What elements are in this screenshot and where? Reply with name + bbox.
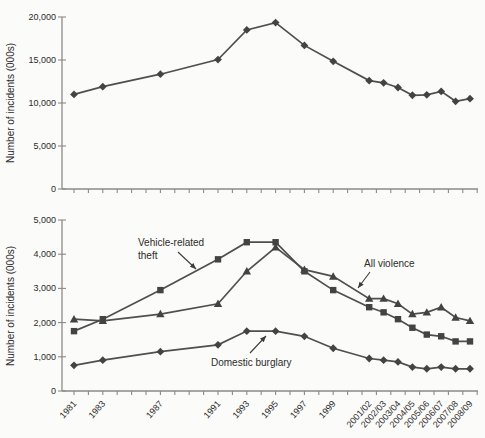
diamond-marker-icon bbox=[243, 327, 251, 335]
dual-panel-line-chart: Number of incidents (000s) Number of inc… bbox=[0, 0, 485, 438]
diamond-marker-icon bbox=[394, 358, 402, 366]
square-marker-icon bbox=[157, 287, 163, 293]
square-marker-icon bbox=[467, 338, 473, 344]
diamond-marker-icon bbox=[409, 91, 417, 99]
x-axis-tick-label: 1995 bbox=[259, 399, 280, 421]
y-axis-tick-label: 10,000 bbox=[28, 98, 56, 108]
top-y-axis-title: Number of incidents (000s) bbox=[5, 43, 16, 163]
y-axis-tick-label: 0 bbox=[51, 184, 56, 194]
y-axis-tick-label: 3,000 bbox=[33, 283, 56, 293]
x-axis-tick-label: 1987 bbox=[144, 399, 165, 421]
diamond-marker-icon bbox=[466, 95, 474, 103]
diamond-marker-icon bbox=[452, 365, 460, 373]
annotation-vehicle-theft-line1: Vehicle-related bbox=[138, 237, 204, 248]
diamond-marker-icon bbox=[70, 361, 78, 369]
diamond-marker-icon bbox=[365, 355, 373, 363]
y-axis-tick-label: 1,000 bbox=[33, 352, 56, 362]
diamond-marker-icon bbox=[423, 91, 431, 99]
y-axis-tick-label: 2,000 bbox=[33, 318, 56, 328]
square-marker-icon bbox=[380, 309, 386, 315]
diamond-marker-icon bbox=[99, 356, 107, 364]
y-axis-tick-label: 20,000 bbox=[28, 12, 56, 22]
square-marker-icon bbox=[366, 304, 372, 310]
diamond-marker-icon bbox=[301, 332, 309, 340]
diamond-marker-icon bbox=[409, 363, 417, 371]
square-marker-icon bbox=[438, 333, 444, 339]
y-axis-tick-label: 15,000 bbox=[28, 55, 56, 65]
diamond-marker-icon bbox=[70, 91, 78, 99]
diamond-marker-icon bbox=[329, 344, 337, 352]
x-axis-tick-label: 1981 bbox=[58, 399, 79, 421]
diamond-marker-icon bbox=[157, 70, 165, 78]
diamond-marker-icon bbox=[157, 348, 165, 356]
series-line bbox=[74, 23, 470, 102]
series-layer bbox=[70, 19, 474, 373]
diamond-marker-icon bbox=[99, 83, 107, 91]
diamond-marker-icon bbox=[437, 363, 445, 371]
annotation-arrows-layer bbox=[178, 252, 370, 353]
x-axis-tick-label: 1991 bbox=[202, 399, 223, 421]
triangle-marker-icon bbox=[437, 303, 445, 310]
y-axis-tick-label: 4,000 bbox=[33, 249, 56, 259]
diamond-marker-icon bbox=[365, 77, 373, 85]
diamond-marker-icon bbox=[272, 327, 280, 335]
y-axis-tick-label: 5,000 bbox=[33, 215, 56, 225]
series-all-incidents bbox=[70, 19, 474, 105]
bottom-y-axis-title: Number of incidents (000s) bbox=[5, 246, 16, 366]
annotation-vehicle-theft-line2: theft bbox=[138, 250, 158, 261]
square-marker-icon bbox=[409, 325, 415, 331]
diamond-marker-icon bbox=[423, 365, 431, 373]
square-marker-icon bbox=[71, 328, 77, 334]
crime-trends-figure: Number of incidents (000s) Number of inc… bbox=[0, 0, 485, 438]
x-axis-tick-label: 1983 bbox=[86, 399, 107, 421]
diamond-marker-icon bbox=[329, 57, 337, 65]
diamond-marker-icon bbox=[380, 79, 388, 87]
annotation-domestic-burglary-label: Domestic burglary bbox=[211, 357, 292, 368]
square-marker-icon bbox=[215, 256, 221, 262]
annotation-all-violence-label: All violence bbox=[364, 258, 415, 269]
x-axis-tick-label: 1993 bbox=[230, 399, 251, 421]
square-marker-icon bbox=[452, 338, 458, 344]
y-axis-tick-label: 5,000 bbox=[33, 141, 56, 151]
diamond-marker-icon bbox=[394, 84, 402, 92]
diamond-marker-icon bbox=[466, 365, 474, 373]
square-marker-icon bbox=[424, 331, 430, 337]
square-marker-icon bbox=[244, 239, 250, 245]
series-all-violence bbox=[70, 243, 474, 324]
x-axis-tick-label: 1999 bbox=[317, 399, 338, 421]
y-axis-tick-label: 0 bbox=[51, 386, 56, 396]
diamond-marker-icon bbox=[380, 356, 388, 364]
x-axis-tick-label: 1997 bbox=[288, 399, 309, 421]
square-marker-icon bbox=[330, 287, 336, 293]
diamond-marker-icon bbox=[214, 341, 222, 349]
annotation-arrow-all-violence-head bbox=[358, 282, 364, 288]
series-vehicle-related-theft bbox=[71, 239, 473, 345]
square-marker-icon bbox=[395, 316, 401, 322]
